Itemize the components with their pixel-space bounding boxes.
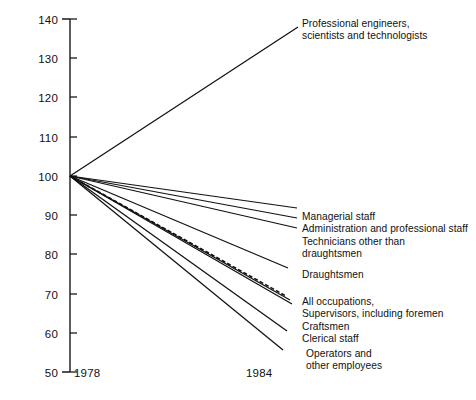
x-tick-label-1984: 1984 bbox=[246, 367, 273, 379]
series-line-professional bbox=[70, 27, 298, 176]
y-axis-line bbox=[62, 19, 70, 372]
label-technicians-line1: Technicians other than bbox=[302, 236, 405, 248]
y-tick-label: 130 bbox=[38, 53, 58, 65]
y-tick-label: 100 bbox=[38, 171, 58, 183]
label-clerical: Clerical staff bbox=[302, 333, 359, 345]
y-tick-label: 60 bbox=[45, 328, 58, 340]
y-axis-tick-labels: 140 130 120 110 100 90 80 70 60 50 bbox=[38, 14, 58, 379]
label-operators-line1: Operators and bbox=[306, 348, 372, 360]
y-tick-label: 70 bbox=[45, 289, 58, 301]
label-supervisors: Supervisors, including foremen bbox=[302, 308, 443, 320]
label-professional-line2: scientists and technologists bbox=[302, 30, 427, 42]
y-tick-label: 110 bbox=[39, 132, 58, 144]
y-tick-label: 80 bbox=[45, 249, 58, 261]
y-tick-label: 120 bbox=[38, 92, 58, 104]
label-craftsmen: Craftsmen bbox=[302, 321, 349, 333]
y-tick-label: 90 bbox=[45, 210, 58, 222]
label-managerial: Managerial staff bbox=[302, 211, 375, 223]
y-tick-label: 50 bbox=[45, 367, 58, 379]
x-tick-label-1978: 1978 bbox=[74, 367, 100, 379]
label-administration: Administration and professional staff bbox=[302, 223, 468, 235]
label-operators-line2: other employees bbox=[306, 360, 382, 372]
chart-plot-area: 140 130 120 110 100 90 80 70 60 50 1978 … bbox=[0, 0, 476, 400]
y-tick-label: 140 bbox=[38, 14, 58, 26]
label-technicians-line2: draughtsmen bbox=[302, 248, 362, 260]
y-axis-ticks bbox=[70, 19, 77, 372]
index-line-chart: 140 130 120 110 100 90 80 70 60 50 1978 … bbox=[0, 0, 476, 400]
series-line-technicians bbox=[70, 176, 297, 228]
label-all-occupations: All occupations, bbox=[302, 296, 374, 308]
label-professional-line1: Professional engineers, bbox=[302, 18, 410, 30]
series-line-craftsmen bbox=[70, 176, 292, 304]
series-lines bbox=[70, 27, 298, 350]
label-draughtsmen: Draughtsmen bbox=[302, 269, 364, 281]
series-line-administration bbox=[70, 176, 297, 218]
